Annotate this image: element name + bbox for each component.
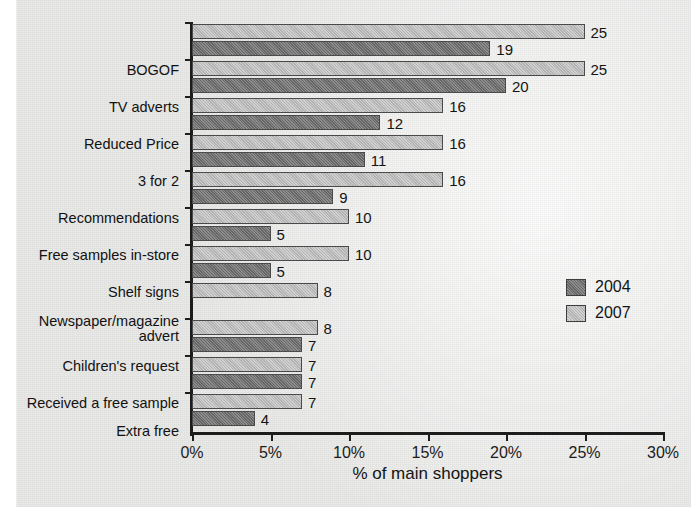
category-label: Shelf signs <box>0 285 179 300</box>
legend-label: 2004 <box>595 278 631 296</box>
bar-value-label: 25 <box>591 62 608 77</box>
category-label: Reduced Price <box>0 137 179 152</box>
bar-value-label: 5 <box>277 264 285 279</box>
y-axis-tick <box>185 133 192 135</box>
bar-2007-10 <box>192 394 302 409</box>
bar-2004-6 <box>192 263 271 278</box>
category-label: Recommendations <box>0 211 179 226</box>
bar-2004-1 <box>192 78 506 93</box>
category-label: BOGOF <box>0 63 179 78</box>
chart-page: BOGOF TV adverts Reduced Price 3 for 2 R… <box>0 0 691 507</box>
y-axis-tick <box>185 59 192 61</box>
bar-value-label: 16 <box>449 173 466 188</box>
bar-2004-2 <box>192 115 380 130</box>
bar-value-label: 10 <box>355 210 372 225</box>
x-axis-tick <box>192 432 194 441</box>
y-axis-tick <box>185 355 192 357</box>
bar-2004-4 <box>192 189 333 204</box>
bar-value-label: 16 <box>449 99 466 114</box>
bar-value-label: 10 <box>355 247 372 262</box>
legend-swatch-icon <box>566 279 586 296</box>
category-label: Newspaper/magazine advert <box>0 314 179 344</box>
y-axis-tick <box>185 281 192 283</box>
category-label: Received a free sample <box>0 396 179 411</box>
y-axis-tick <box>185 392 192 394</box>
chart-legend: 2004 2007 <box>566 278 631 330</box>
x-tick-label: 25% <box>568 444 600 462</box>
legend-item-2004[interactable]: 2004 <box>566 278 631 296</box>
category-axis-labels: BOGOF TV adverts Reduced Price 3 for 2 R… <box>0 26 185 432</box>
y-axis-tick <box>185 244 192 246</box>
bar-2007-7 <box>192 283 318 298</box>
legend-label: 2007 <box>595 304 631 322</box>
plot-area: 0% 5% 10% 15% 20% 25% 30% 25192520161216… <box>192 26 663 432</box>
y-axis-tick <box>185 207 192 209</box>
bar-2007-5 <box>192 209 349 224</box>
x-axis-tick <box>663 432 665 441</box>
bar-2004-8 <box>192 337 302 352</box>
y-axis-tick <box>185 22 192 24</box>
bar-value-label: 7 <box>308 395 316 410</box>
bar-2007-8 <box>192 320 318 335</box>
bar-2007-2 <box>192 98 443 113</box>
x-axis-tick <box>585 432 587 441</box>
y-axis-tick <box>185 170 192 172</box>
bar-2004-10 <box>192 411 255 426</box>
category-label: 3 for 2 <box>0 174 179 189</box>
bar-value-label: 8 <box>324 284 332 299</box>
bar-value-label: 5 <box>277 227 285 242</box>
bar-2004-3 <box>192 152 365 167</box>
bar-value-label: 7 <box>308 375 316 390</box>
category-label: Children's request <box>0 359 179 374</box>
y-axis-tick <box>185 96 192 98</box>
x-axis-tick <box>349 432 351 441</box>
bar-value-label: 12 <box>386 116 403 131</box>
x-tick-label: 20% <box>490 444 522 462</box>
bar-value-label: 20 <box>512 79 529 94</box>
x-tick-label: 5% <box>259 444 282 462</box>
bar-2004-0 <box>192 41 490 56</box>
x-tick-label: 0% <box>180 444 203 462</box>
category-label: Free samples in-store <box>0 248 179 263</box>
legend-item-2007[interactable]: 2007 <box>566 304 631 322</box>
x-tick-label: 30% <box>647 444 679 462</box>
legend-swatch-icon <box>566 305 586 322</box>
bar-2007-1 <box>192 61 585 76</box>
bar-value-label: 16 <box>449 136 466 151</box>
bar-value-label: 7 <box>308 358 316 373</box>
bar-value-label: 4 <box>261 412 269 427</box>
bar-2007-0 <box>192 24 585 39</box>
x-axis-title: % of main shoppers <box>192 464 663 484</box>
bar-2004-5 <box>192 226 271 241</box>
bar-value-label: 25 <box>591 25 608 40</box>
category-label: TV adverts <box>0 100 179 115</box>
y-axis-tick <box>185 318 192 320</box>
bar-2007-3 <box>192 135 443 150</box>
x-axis-tick <box>428 432 430 441</box>
bar-value-label: 7 <box>308 338 316 353</box>
bar-2007-6 <box>192 246 349 261</box>
bar-value-label: 19 <box>496 42 513 57</box>
x-axis-tick <box>271 432 273 441</box>
x-axis-tick <box>506 432 508 441</box>
x-tick-label: 15% <box>411 444 443 462</box>
bar-2004-9 <box>192 374 302 389</box>
category-label: Extra free <box>0 424 179 439</box>
x-tick-label: 10% <box>333 444 365 462</box>
bar-value-label: 8 <box>324 321 332 336</box>
bar-2007-4 <box>192 172 443 187</box>
bar-value-label: 11 <box>371 153 387 168</box>
bar-2007-9 <box>192 357 302 372</box>
bar-value-label: 9 <box>339 190 347 205</box>
